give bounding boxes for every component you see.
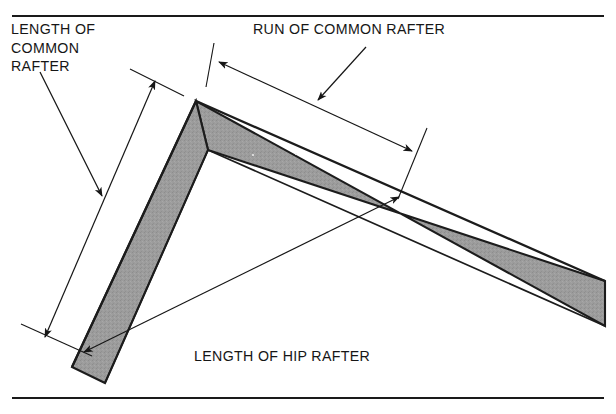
framing-square <box>72 101 605 383</box>
label-length-of-hip-rafter: LENGTH OF HIP RAFTER <box>194 347 370 366</box>
square-blade-long <box>196 101 605 326</box>
witness-line-run-left <box>206 43 214 87</box>
leader-line-length-of-common-rafter <box>40 72 102 196</box>
witness-line-run-right <box>398 128 427 199</box>
witness-line-top-left <box>130 69 184 96</box>
blade-highlight-speck <box>252 154 254 156</box>
leader-line-run-of-common-rafter <box>318 47 366 100</box>
figure-canvas: LENGTH OFCOMMONRAFTER RUN OF COMMON RAFT… <box>0 0 616 414</box>
label-line-1: LENGTH OF <box>11 21 95 37</box>
witness-line-bottom-left <box>21 324 92 356</box>
label-length-of-common-rafter: LENGTH OFCOMMONRAFTER <box>11 20 95 76</box>
square-tongue-short <box>72 101 208 383</box>
label-line-2: COMMON <box>11 40 79 56</box>
label-line-3: RAFTER <box>11 58 70 74</box>
blade-highlight-speck-2 <box>295 153 297 155</box>
label-run-of-common-rafter: RUN OF COMMON RAFTER <box>253 20 445 39</box>
